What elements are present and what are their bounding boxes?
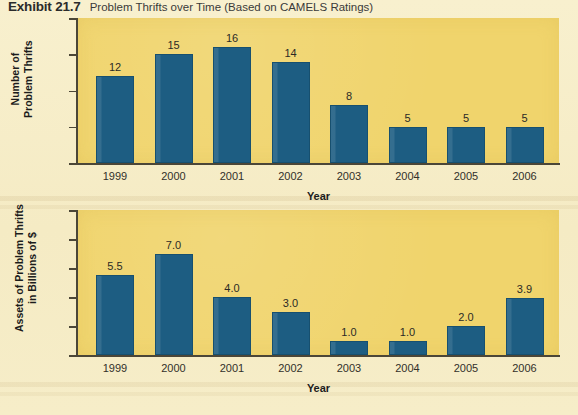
bar-value-0-2002: 14 — [262, 47, 320, 59]
x-tick-label-1-1999: 1999 — [86, 362, 144, 374]
x-tick-label-1-2004: 2004 — [379, 362, 437, 374]
x-tick-label-0-1999: 1999 — [86, 170, 144, 182]
y-tick-1-5 — [69, 210, 77, 212]
y-tick-1-1 — [69, 326, 77, 328]
bar-value-0-2000: 15 — [145, 39, 203, 51]
bar-1-2001 — [213, 297, 251, 355]
bar-0-2003 — [330, 105, 368, 163]
bar-value-0-2001: 16 — [203, 32, 261, 44]
exhibit-title: Exhibit 21.7Problem Thrifts over Time (B… — [8, 0, 568, 15]
x-tick-label-0-2001: 2001 — [203, 170, 261, 182]
y-axis-title-bottom-line1: Assets of Problem Thrifts — [13, 198, 26, 338]
bar-0-2005 — [447, 127, 485, 163]
bar-value-1-2002: 3.0 — [262, 297, 320, 309]
bar-0-2000 — [155, 54, 193, 163]
bar-value-0-2005: 5 — [437, 112, 495, 124]
bar-value-0-2006: 5 — [496, 112, 554, 124]
y-axis-title-top-line1: Number of — [9, 19, 22, 139]
x-tick-label-0-2004: 2004 — [379, 170, 437, 182]
bar-0-2002 — [272, 62, 310, 164]
bar-1-2003 — [330, 341, 368, 356]
exhibit-number: Exhibit 21.7 — [8, 0, 81, 14]
y-tick-1-4 — [69, 239, 77, 241]
x-tick-label-0-2005: 2005 — [437, 170, 495, 182]
x-tick-label-0-2002: 2002 — [262, 170, 320, 182]
x-tick-label-1-2006: 2006 — [496, 362, 554, 374]
bar-value-0-1999: 12 — [86, 61, 144, 73]
x-axis-line-bottom — [76, 355, 560, 357]
bar-1-2005 — [447, 326, 485, 355]
y-tick-1-2 — [69, 297, 77, 299]
y-axis-title-bottom: Assets of Problem Thrifts in Billions of… — [13, 198, 39, 338]
bar-value-0-2003: 8 — [320, 90, 378, 102]
x-tick-label-1-2001: 2001 — [203, 362, 261, 374]
y-axis-title-bottom-line2: in Billions of $ — [26, 198, 39, 338]
y-tick-1-3 — [69, 268, 77, 270]
bar-value-1-2000: 7.0 — [145, 239, 203, 251]
bar-1-2004 — [389, 341, 427, 356]
x-tick-label-0-2000: 2000 — [145, 170, 203, 182]
bar-value-1-2005: 2.0 — [437, 311, 495, 323]
bar-1-2002 — [272, 312, 310, 356]
bar-0-2001 — [213, 47, 251, 163]
bar-value-1-2006: 3.9 — [496, 283, 554, 295]
bar-1-2006 — [506, 298, 544, 355]
exhibit-page: Exhibit 21.7Problem Thrifts over Time (B… — [0, 0, 578, 415]
y-tick-0-3 — [69, 54, 77, 56]
x-axis-title-top: Year — [78, 190, 559, 202]
bar-value-1-2003: 1.0 — [320, 326, 378, 338]
x-tick-label-1-2005: 2005 — [437, 362, 495, 374]
x-tick-label-1-2003: 2003 — [320, 362, 378, 374]
y-tick-0-0 — [69, 163, 77, 165]
y-tick-0-4 — [69, 18, 77, 20]
y-axis-title-top: Number of Problem Thrifts — [9, 19, 35, 139]
y-axis-line-bottom — [76, 210, 78, 356]
bar-1-1999 — [96, 275, 134, 355]
plot-area-bottom — [78, 210, 559, 355]
x-tick-label-0-2003: 2003 — [320, 170, 378, 182]
bar-0-1999 — [96, 76, 134, 163]
x-tick-label-1-2002: 2002 — [262, 362, 320, 374]
x-axis-line-top — [76, 163, 560, 165]
y-tick-1-0 — [69, 355, 77, 357]
bar-value-1-1999: 5.5 — [86, 260, 144, 272]
bar-1-2000 — [155, 254, 193, 356]
x-axis-title-bottom: Year — [78, 382, 559, 394]
bar-value-1-2004: 1.0 — [379, 326, 437, 338]
y-axis-title-top-line2: Problem Thrifts — [22, 19, 35, 139]
y-tick-0-1 — [69, 127, 77, 129]
bar-0-2006 — [506, 127, 544, 163]
bar-value-1-2001: 4.0 — [203, 282, 261, 294]
x-tick-label-0-2006: 2006 — [496, 170, 554, 182]
y-tick-0-2 — [69, 91, 77, 93]
bar-0-2004 — [389, 127, 427, 163]
exhibit-caption: Problem Thrifts over Time (Based on CAME… — [90, 1, 374, 13]
bar-value-0-2004: 5 — [379, 112, 437, 124]
x-tick-label-1-2000: 2000 — [145, 362, 203, 374]
